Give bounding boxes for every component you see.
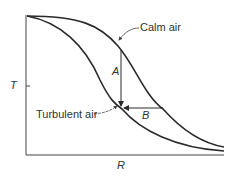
calm-air-curve [27, 16, 224, 147]
arrow-a-label: A [112, 66, 119, 77]
turbulent-air-label: Turbulent air [36, 109, 97, 120]
calm-air-label: Calm air [140, 22, 181, 33]
calm-air-leader [119, 28, 139, 40]
x-axis-label: R [117, 160, 125, 171]
turbulent-air-curve [27, 16, 224, 151]
y-axis-label: T [10, 80, 17, 91]
diagram: T R Calm air Turbulent air A B [0, 0, 231, 179]
diagram-canvas [0, 0, 231, 179]
arrow-b-label: B [142, 110, 149, 121]
turbulent-air-leader [94, 106, 117, 114]
